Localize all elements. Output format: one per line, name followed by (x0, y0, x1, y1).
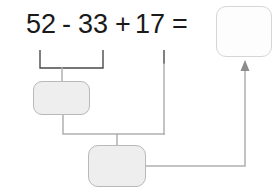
equation-expression: 52-33+17= (26, 9, 193, 39)
operand-3: 17 (135, 9, 165, 39)
answer-input-box[interactable] (216, 6, 272, 57)
grouping-bracket (40, 50, 103, 68)
operator-minus: - (62, 9, 71, 39)
connector-step2-to-answer (146, 68, 245, 166)
bracket-under-52-minus-33 (40, 50, 103, 68)
operand-1: 52 (26, 9, 56, 39)
operator-equals: = (172, 9, 188, 39)
step-1-input-box[interactable] (33, 81, 90, 115)
operand-2: 33 (78, 9, 108, 39)
math-worksheet-canvas: 52-33+17= (0, 0, 280, 194)
operator-plus: + (115, 9, 131, 39)
step-2-input-box[interactable] (88, 145, 146, 187)
connector-step1-to-step2-row (63, 115, 164, 134)
arrow-head-to-answer (241, 60, 250, 71)
